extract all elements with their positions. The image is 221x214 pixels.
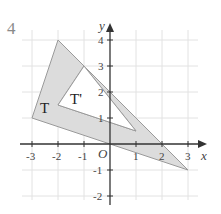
- x-axis-label: x: [200, 148, 207, 163]
- y-tick-label: -1: [93, 164, 102, 176]
- y-tick-label: 4: [98, 34, 104, 46]
- x-tick-label: -2: [52, 150, 61, 162]
- x-axis-arrow-icon: [198, 140, 207, 148]
- x-tick-label: 3: [185, 150, 191, 162]
- y-tick-label: 2: [98, 86, 104, 98]
- y-axis-arrow-icon: [106, 23, 114, 32]
- label-T-prime: T': [70, 91, 82, 107]
- y-tick-label: -2: [93, 190, 102, 202]
- x-tick-label: 2: [159, 150, 165, 162]
- x-tick-label: -1: [78, 150, 87, 162]
- y-tick-label: 1: [98, 112, 104, 124]
- y-tick-label: 3: [98, 60, 104, 72]
- y-axis-label: y: [97, 18, 105, 33]
- x-tick-label: 1: [133, 150, 139, 162]
- coordinate-diagram: -3 -2 -1 1 2 3 4 3 2 1 -1 -2 O x y T T': [0, 0, 221, 214]
- x-tick-label: -3: [26, 150, 36, 162]
- origin-label: O: [98, 146, 108, 161]
- label-T: T: [40, 100, 49, 116]
